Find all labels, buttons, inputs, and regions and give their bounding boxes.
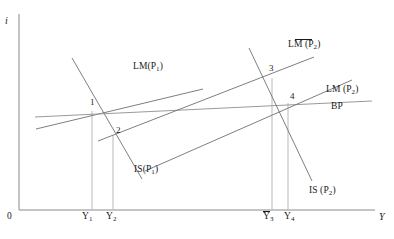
curve-label-lm-p2: LM (P2) xyxy=(326,85,358,96)
x-tick-label-y4: Y4 xyxy=(284,212,295,223)
curve-label-lm-p2-main: LM (P xyxy=(326,84,352,94)
curve-label-is-p2: IS (P2) xyxy=(309,186,336,197)
origin-label: 0 xyxy=(7,212,12,222)
curve-label-is-p1-tail: ) xyxy=(155,164,158,174)
point-label-3: 3 xyxy=(269,64,274,73)
curve-lm-p2-bar xyxy=(98,57,314,141)
curve-label-lm-p2-tail: ) xyxy=(355,84,358,94)
x-tick-y4-sub: 4 xyxy=(291,215,295,223)
x-tick-y1-base: Y xyxy=(82,211,89,221)
curves-group xyxy=(35,48,372,181)
curve-lm-p2 xyxy=(145,80,352,171)
curve-label-lm-p2-bar-m: M (P xyxy=(294,40,314,50)
point-label-1: 1 xyxy=(90,98,95,107)
point-label-4: 4 xyxy=(290,92,295,101)
x-tick-label-y2: Y2 xyxy=(106,212,117,223)
curve-label-lm-p1: LM(P1) xyxy=(133,62,163,73)
x-tick-y4-base: Y xyxy=(284,211,291,221)
curve-label-is-p1: IS(P1) xyxy=(134,165,158,176)
x-tick-y2-sub: 2 xyxy=(113,215,117,223)
curve-label-lm-p1-main: LM(P xyxy=(133,61,156,71)
x-tick-y3-sub: 3 xyxy=(270,215,274,223)
is-lm-bp-diagram: i Y 0 Y1 Y2 Y3 Y4 LM(P1) IS(P1) BP LM (P… xyxy=(0,0,394,239)
curve-label-lm-p1-tail: ) xyxy=(160,61,163,71)
curve-bp xyxy=(35,101,372,117)
curve-label-is-p2-main: IS (P xyxy=(309,185,329,195)
x-tick-y3-base: Y xyxy=(263,212,270,222)
curve-label-is-p2-tail: ) xyxy=(332,185,335,195)
curve-label-lm-p2-bar-close: ) xyxy=(317,39,320,49)
axes-group xyxy=(19,14,375,210)
diagram-canvas xyxy=(0,0,394,239)
x-tick-y2-base: Y xyxy=(106,211,113,221)
x-tick-label-y1: Y1 xyxy=(82,212,93,223)
x-axis-label: Y xyxy=(379,212,385,222)
curve-label-bp-main: BP xyxy=(331,101,343,111)
x-tick-y1-sub: 1 xyxy=(89,215,93,223)
curve-label-bp: BP xyxy=(331,102,343,112)
curve-label-lm-p2-bar: LM (P2) xyxy=(288,40,320,51)
curve-lm-p1 xyxy=(36,89,203,129)
x-tick-label-y3: Y3 xyxy=(263,212,274,223)
point-label-2: 2 xyxy=(116,126,121,135)
curve-label-is-p1-main: IS(P xyxy=(134,164,151,174)
y-axis-label: i xyxy=(5,16,8,26)
curve-is-p2 xyxy=(249,48,312,181)
curve-is-p1 xyxy=(72,58,142,179)
